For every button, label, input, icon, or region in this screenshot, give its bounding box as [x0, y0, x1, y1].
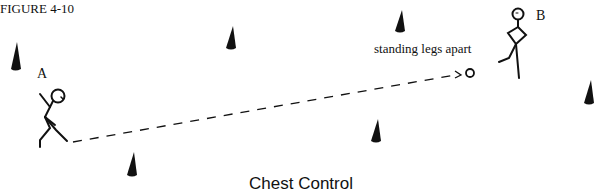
ball-icon: [466, 69, 474, 77]
player-a-figure: [40, 90, 67, 148]
player-b-figure: [499, 9, 526, 79]
cone-icon: [584, 80, 594, 105]
cone-icon: [11, 42, 21, 71]
drill-diagram: [0, 0, 602, 190]
figure-caption: Chest Control: [0, 174, 602, 190]
player-label-a: A: [37, 66, 47, 82]
player-label-b: B: [536, 8, 545, 24]
pass-arrow: [73, 71, 461, 142]
cone-icon: [127, 152, 137, 177]
cone-icon: [226, 26, 236, 50]
annotation-standing-legs-apart: standing legs apart: [374, 41, 471, 57]
cone-icon: [395, 10, 405, 33]
cone-icon: [371, 119, 381, 143]
